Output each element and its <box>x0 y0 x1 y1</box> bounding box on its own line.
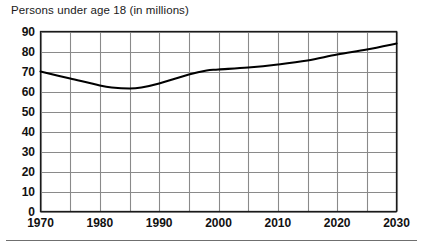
x-tick-label: 2000 <box>205 216 232 230</box>
x-tick-label: 2030 <box>383 216 410 230</box>
y-tick-label: 20 <box>22 165 36 179</box>
y-tick-label: 10 <box>22 185 36 199</box>
line-chart: 9080706050403020100 19701980199020002010… <box>0 0 423 249</box>
y-tick-label: 30 <box>22 145 36 159</box>
plot-frame <box>41 32 397 212</box>
y-axis-labels: 9080706050403020100 <box>22 25 36 219</box>
x-tick-label: 2010 <box>264 216 291 230</box>
y-tick-label: 50 <box>22 105 36 119</box>
x-tick-label: 1980 <box>86 216 113 230</box>
data-series-line <box>41 44 397 89</box>
y-tick-label: 90 <box>22 25 36 39</box>
x-gridlines <box>42 32 398 212</box>
x-axis-labels: 1970198019902000201020202030 <box>27 216 410 230</box>
y-tick-label: 60 <box>22 85 36 99</box>
y-tick-label: 80 <box>22 45 36 59</box>
x-tick-label: 1970 <box>27 216 54 230</box>
y-tick-label: 70 <box>22 65 36 79</box>
chart-page: Persons under age 18 (in millions) 90807… <box>0 0 423 249</box>
bottom-divider <box>6 240 417 241</box>
y-gridlines <box>41 33 397 213</box>
y-tick-label: 40 <box>22 125 36 139</box>
x-tick-label: 2020 <box>324 216 351 230</box>
x-tick-label: 1990 <box>146 216 173 230</box>
